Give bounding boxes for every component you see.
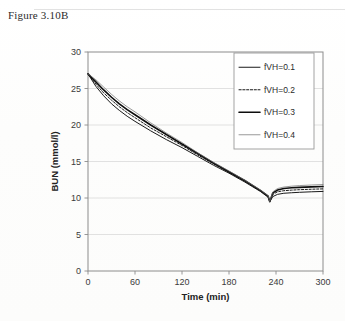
y-tick-label: 25 (71, 84, 81, 94)
x-tick-label: 120 (174, 277, 189, 287)
y-tick-label: 0 (76, 266, 81, 276)
y-tick-label: 10 (71, 193, 81, 203)
figure-caption: Figure 3.10B (8, 9, 68, 21)
x-tick-label: 60 (130, 277, 140, 287)
legend-label-fvh-0-1: fVH=0.1 (264, 62, 295, 72)
chart-legend: fVH=0.1fVH=0.2fVH=0.3fVH=0.4 (234, 53, 314, 149)
chart-figure: 060120180240300 051015202530 Time (min)B… (0, 32, 345, 321)
legend-label-fvh-0-4: fVH=0.4 (264, 130, 295, 140)
y-tick-label: 20 (71, 120, 81, 130)
x-tick-label: 0 (85, 277, 90, 287)
legend-label-fvh-0-3: fVH=0.3 (264, 107, 295, 117)
bun-vs-time-line-chart: 060120180240300 051015202530 Time (min)B… (0, 32, 345, 321)
y-tick-label: 15 (71, 157, 81, 167)
x-tick-label: 300 (315, 277, 330, 287)
caption-rule (34, 9, 345, 10)
x-tick-label: 240 (268, 277, 283, 287)
y-tick-label: 30 (71, 47, 81, 57)
x-axis-title: Time (min) (182, 291, 230, 302)
x-axis-ticks: 060120180240300 (85, 271, 330, 287)
page-canvas: Figure 3.10B 060120180240300 05101520253… (0, 0, 345, 321)
legend-label-fvh-0-2: fVH=0.2 (264, 85, 295, 95)
y-axis-ticks: 051015202530 (71, 47, 88, 276)
y-tick-label: 5 (76, 230, 81, 240)
y-axis-title: BUN (mmol/l) (49, 131, 60, 191)
x-tick-label: 180 (221, 277, 236, 287)
